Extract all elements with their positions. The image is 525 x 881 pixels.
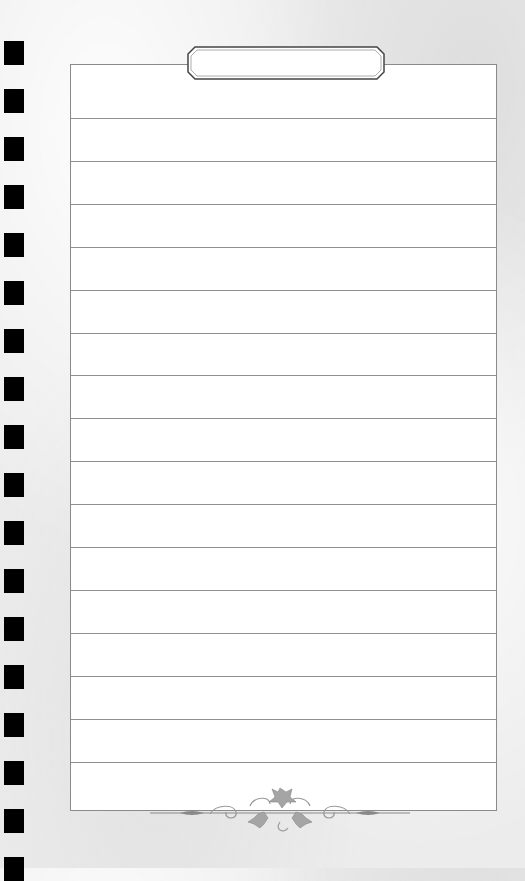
binding-hole [4, 185, 24, 209]
binding-hole [4, 233, 24, 257]
binding-hole [4, 617, 24, 641]
binding-hole [4, 665, 24, 689]
binding-hole [4, 713, 24, 737]
rule-line [71, 418, 496, 419]
rule-line [71, 633, 496, 634]
rule-line [71, 762, 496, 763]
binding-hole [4, 137, 24, 161]
binding-hole [4, 425, 24, 449]
rule-line [71, 375, 496, 376]
binding-hole [4, 329, 24, 353]
binding-hole [4, 41, 24, 65]
rule-line [71, 547, 496, 548]
vine-ornament-icon [150, 782, 410, 840]
rule-line [71, 719, 496, 720]
rule-line [71, 247, 496, 248]
lined-paper [70, 64, 497, 811]
rule-line [71, 161, 496, 162]
binding-hole [4, 377, 24, 401]
binding-hole [4, 281, 24, 305]
rule-line [71, 333, 496, 334]
rule-line [71, 290, 496, 291]
rule-line [71, 204, 496, 205]
binding-hole [4, 569, 24, 593]
rule-line [71, 590, 496, 591]
title-tab[interactable] [187, 46, 385, 80]
binding-hole [4, 89, 24, 113]
rule-line [71, 676, 496, 677]
binding-hole [4, 761, 24, 785]
rule-line [71, 461, 496, 462]
binding-hole [4, 521, 24, 545]
binding-hole [4, 809, 24, 833]
binding-hole [4, 857, 24, 881]
binding-hole [4, 473, 24, 497]
rule-line [71, 504, 496, 505]
rule-line [71, 118, 496, 119]
